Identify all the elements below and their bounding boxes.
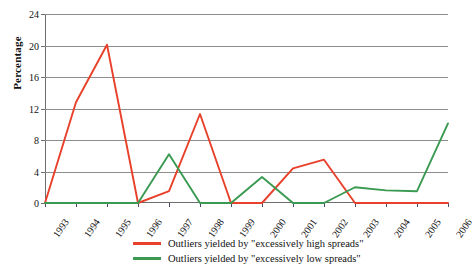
y-tick-label: 0 [34, 198, 39, 209]
legend-item-high-spreads: Outliers yielded by "excessively high sp… [0, 236, 454, 251]
legend-swatch [133, 257, 161, 260]
y-tick-label: 16 [29, 72, 39, 83]
plot-area: 04812162024 1993199419951996199719981999… [45, 14, 448, 203]
legend-swatch [133, 242, 161, 245]
chart-legend: Outliers yielded by "excessively high sp… [0, 236, 454, 266]
series-line-high-spreads [45, 45, 448, 203]
legend-label: Outliers yielded by "excessively high sp… [168, 238, 364, 249]
y-axis-title: Percentage [10, 13, 24, 113]
y-tick-label: 8 [34, 135, 39, 146]
y-tick-label: 12 [29, 103, 39, 114]
series-lines [45, 14, 448, 203]
x-tick-label: 2006 [454, 217, 474, 240]
y-tick-label: 20 [29, 40, 39, 51]
x-tick-mark [169, 203, 170, 207]
legend-item-low-spreads: Outliers yielded by "excessively low spr… [0, 251, 454, 266]
series-line-low-spreads [45, 123, 448, 203]
y-tick-label: 24 [29, 9, 39, 20]
legend-label: Outliers yielded by "excessively low spr… [168, 253, 361, 264]
y-tick-label: 4 [34, 166, 39, 177]
